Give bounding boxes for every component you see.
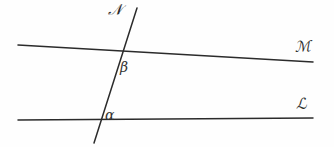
geometry-diagram: 𝒩 ℳ ℒ β α: [0, 0, 334, 147]
line-label-m: ℳ: [295, 40, 312, 56]
diagram-canvas: [0, 0, 334, 147]
angle-label-beta: β: [120, 60, 128, 74]
line-l-stroke: [18, 118, 313, 120]
line-m-stroke: [18, 45, 313, 62]
line-label-l: ℒ: [296, 97, 308, 112]
angle-label-alpha: α: [105, 108, 114, 122]
line-n-stroke: [94, 8, 137, 143]
line-label-n: 𝒩: [108, 3, 123, 18]
